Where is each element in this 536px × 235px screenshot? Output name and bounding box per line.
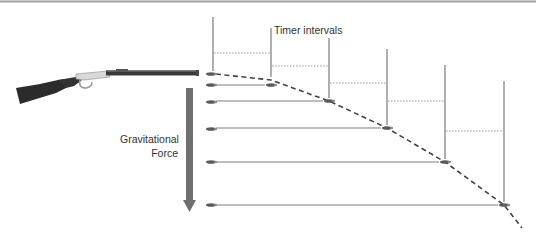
- bullet-tip: [214, 204, 217, 206]
- bullet-tip: [214, 101, 217, 103]
- timer-intervals-label: Timer intervals: [274, 23, 342, 37]
- bullet-tip: [390, 127, 393, 129]
- timer-intervals: [213, 17, 504, 202]
- horizontal-paths: [216, 85, 498, 205]
- projectile-diagram: Timer intervals Gravitational Force: [0, 0, 536, 235]
- gravitational-force-label-line1: Gravitational: [120, 132, 178, 146]
- bullet-icon: [266, 83, 277, 87]
- bullet-icon: [206, 203, 217, 207]
- bullet-tip: [214, 128, 217, 130]
- bullet-icon: [206, 100, 217, 104]
- gravity-arrow-shaft: [186, 88, 193, 200]
- bullet-tip: [274, 84, 277, 86]
- bullet-icon: [440, 160, 451, 164]
- bullet-icon: [206, 83, 217, 87]
- bullet-icon: [499, 203, 510, 207]
- bullets: [206, 72, 510, 207]
- gravitational-force-label-line2: Force: [120, 146, 178, 160]
- gravitational-force-label: Gravitational Force: [120, 132, 178, 160]
- rifle-receiver: [76, 71, 110, 80]
- bullet-icon: [206, 127, 217, 131]
- bullet-tip: [507, 204, 510, 206]
- rifle-lever: [80, 80, 92, 88]
- rifle-icon: [16, 69, 199, 104]
- bullet-icon: [206, 72, 217, 76]
- bullet-tip: [214, 84, 217, 86]
- bullet-icon: [206, 160, 217, 164]
- bullet-tip: [332, 100, 335, 102]
- down-arrow-icon: [183, 88, 196, 212]
- bullet-icon: [382, 126, 393, 130]
- diagram-canvas: [0, 0, 536, 235]
- bullet-tip: [448, 161, 451, 163]
- bullet-tip: [214, 161, 217, 163]
- gravity-arrow-head: [183, 200, 196, 212]
- bullet-tip: [214, 73, 217, 75]
